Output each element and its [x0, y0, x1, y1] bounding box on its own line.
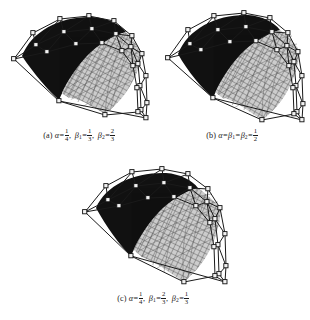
figure-a: (a)α=14, β1=13, β2=23 [4, 2, 154, 154]
comma: , [143, 294, 145, 303]
figure-c-label: (c) [117, 294, 126, 303]
equals-sign: = [156, 294, 161, 303]
comma: , [92, 131, 94, 140]
figure-a-param-2-fraction: 23 [110, 128, 114, 142]
equals-sign: = [179, 294, 184, 303]
equals-sign: = [223, 131, 228, 140]
figure-b-surface [156, 2, 308, 124]
figure-a-caption: (a)α=14, β1=13, β2=23 [4, 128, 154, 142]
equals-sign: = [59, 131, 64, 140]
equals-sign: = [236, 131, 241, 140]
spline-surface-a [4, 2, 154, 124]
figure-b-param-0-symbol: α [218, 131, 222, 140]
comma: , [166, 294, 168, 303]
spline-surface-b [156, 2, 308, 124]
figure-b-label: (b) [206, 131, 216, 140]
figure-b: (b)α=β1=β2=12 [156, 2, 308, 154]
denominator: 2 [253, 136, 257, 143]
figure-a-surface [4, 2, 154, 124]
equals-sign: = [105, 131, 110, 140]
figure-a-label: (a) [43, 131, 52, 140]
figure-c-param-2-fraction: 13 [184, 291, 188, 305]
figure-c-caption: (c)α=14, β1=23, β2=13 [76, 291, 230, 305]
figure-c: (c)α=14, β1=23, β2=13 [76, 162, 230, 317]
figure-b-param-2-fraction: 12 [253, 128, 257, 142]
denominator: 3 [184, 299, 188, 306]
denominator: 3 [110, 136, 114, 143]
figure-c-surface [76, 162, 230, 288]
equals-sign: = [133, 294, 138, 303]
comma: , [69, 131, 71, 140]
figure-b-caption: (b)α=β1=β2=12 [156, 128, 308, 142]
equals-sign: = [248, 131, 253, 140]
equals-sign: = [82, 131, 87, 140]
figure-b-param-1-subscript: 1 [232, 134, 235, 140]
spline-surface-c [76, 162, 230, 288]
